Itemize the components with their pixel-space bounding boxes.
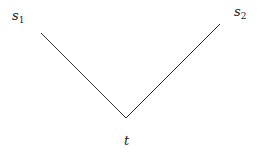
- edge-t-s2: [126, 24, 220, 118]
- t-base: t: [124, 133, 129, 148]
- diagram-canvas: s1 s2 t: [0, 0, 258, 154]
- node-label-s1: s1: [12, 9, 24, 25]
- node-label-t: t: [124, 134, 129, 147]
- s1-base: s: [12, 8, 19, 23]
- edges-layer: [0, 0, 258, 154]
- s1-subscript: 1: [19, 15, 25, 25]
- edge-s1-t: [41, 33, 126, 118]
- node-label-s2: s2: [234, 5, 246, 21]
- s2-base: s: [234, 4, 241, 19]
- s2-subscript: 2: [241, 11, 247, 21]
